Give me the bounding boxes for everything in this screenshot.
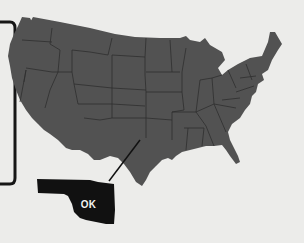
oklahoma-highlight — [37, 179, 115, 224]
us-map — [0, 0, 304, 243]
us-states-silhouette — [8, 17, 282, 186]
oklahoma-label: OK — [81, 198, 96, 210]
